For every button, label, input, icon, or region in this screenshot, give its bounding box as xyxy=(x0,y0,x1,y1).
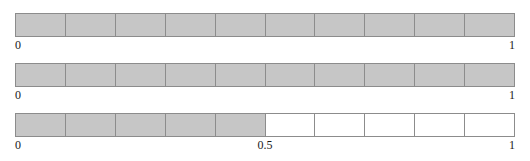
bar-cell-filled xyxy=(465,14,514,36)
bar-cell-filled xyxy=(365,14,415,36)
bar-cell-filled xyxy=(465,64,514,86)
bar-cell-filled xyxy=(266,14,316,36)
bar-cell-filled xyxy=(116,14,166,36)
bar-cell-filled xyxy=(415,14,465,36)
bar-cell-filled xyxy=(16,64,66,86)
bar-axis-1: 01 xyxy=(15,38,515,54)
bar-axis-3: 00.51 xyxy=(15,138,515,154)
bar-row-2: 01 xyxy=(15,63,515,104)
bar-row-3: 00.51 xyxy=(15,113,515,154)
bar-cell-filled xyxy=(166,14,216,36)
bar-cell-empty xyxy=(415,114,465,136)
bar-cell-filled xyxy=(365,64,415,86)
proportion-bar-3 xyxy=(15,113,515,137)
bar-cell-filled xyxy=(66,114,116,136)
axis-tick-label: 1 xyxy=(509,38,515,53)
bar-cell-empty xyxy=(315,114,365,136)
axis-tick-label: 0 xyxy=(15,38,21,53)
bar-cell-filled xyxy=(166,64,216,86)
bar-cell-filled xyxy=(315,14,365,36)
proportion-bar-1 xyxy=(15,13,515,37)
bar-cell-filled xyxy=(116,64,166,86)
bar-cell-filled xyxy=(166,114,216,136)
axis-tick-label: 0 xyxy=(15,88,21,103)
bar-cell-filled xyxy=(216,114,266,136)
bar-cell-filled xyxy=(16,114,66,136)
axis-tick-label: 1 xyxy=(509,88,515,103)
axis-tick-label: 1 xyxy=(509,138,515,153)
bar-axis-2: 01 xyxy=(15,88,515,104)
bar-cell-filled xyxy=(116,114,166,136)
bar-row-1: 01 xyxy=(15,13,515,54)
proportion-bar-2 xyxy=(15,63,515,87)
bar-cell-empty xyxy=(365,114,415,136)
bar-cell-filled xyxy=(216,14,266,36)
bar-cell-filled xyxy=(16,14,66,36)
bar-cell-empty xyxy=(465,114,514,136)
bar-cell-filled xyxy=(266,64,316,86)
bar-cell-filled xyxy=(66,14,116,36)
axis-tick-label: 0 xyxy=(15,138,21,153)
bar-cell-filled xyxy=(66,64,116,86)
axis-tick-label: 0.5 xyxy=(258,138,273,153)
unit-interval-bars-figure: 010100.51 xyxy=(0,0,530,161)
bar-cell-empty xyxy=(266,114,316,136)
bar-cell-filled xyxy=(415,64,465,86)
bar-cell-filled xyxy=(216,64,266,86)
bar-cell-filled xyxy=(315,64,365,86)
